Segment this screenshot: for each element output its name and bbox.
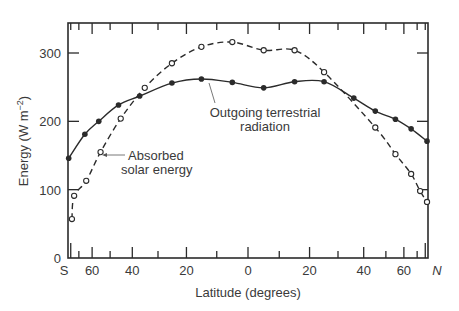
- annotation-arrow-outgoing: [209, 83, 215, 103]
- x-tick-label: S: [60, 263, 69, 278]
- data-point-filled: [321, 79, 327, 85]
- data-point-open: [98, 149, 103, 154]
- data-point-open: [169, 61, 174, 66]
- data-point-filled: [351, 95, 357, 101]
- axis-ticks: [68, 23, 428, 258]
- x-tick-labels: S6040200204060N: [60, 263, 443, 278]
- data-point-open: [373, 125, 378, 130]
- energy-balance-chart: 0100200300 S6040200204060N Latitude (deg…: [0, 0, 459, 311]
- y-tick-label: 100: [39, 183, 61, 198]
- data-point-filled: [116, 102, 122, 108]
- annotation-absorbed-line2: solar energy: [121, 162, 193, 177]
- annotation-absorbed: Absorbed solar energy: [102, 148, 193, 177]
- y-tick-labels: 0100200300: [39, 46, 61, 266]
- data-point-filled: [393, 116, 399, 122]
- data-point-open: [409, 171, 414, 176]
- y-axis-title: Energy (W m−2): [15, 96, 31, 186]
- data-point-filled: [424, 138, 430, 144]
- data-point-filled: [261, 85, 267, 91]
- x-tick-label: 60: [85, 263, 99, 278]
- data-point-filled: [96, 119, 102, 125]
- data-point-filled: [230, 80, 236, 86]
- annotation-outgoing-line1: Outgoing terrestrial: [210, 105, 321, 120]
- data-point-filled: [66, 155, 72, 161]
- data-point-open: [118, 116, 123, 121]
- x-tick-label: 40: [356, 263, 370, 278]
- data-point-open: [418, 188, 423, 193]
- x-tick-label: 40: [125, 263, 139, 278]
- annotation-outgoing: Outgoing terrestrial radiation: [209, 83, 320, 134]
- y-tick-label: 200: [39, 114, 61, 129]
- data-point-filled: [199, 76, 205, 82]
- data-point-filled: [169, 80, 175, 86]
- data-point-filled: [292, 79, 298, 85]
- data-point-open: [84, 178, 89, 183]
- data-point-filled: [82, 132, 88, 138]
- data-point-open: [424, 199, 429, 204]
- data-point-open: [199, 44, 204, 49]
- data-point-open: [69, 216, 74, 221]
- data-point-filled: [372, 108, 378, 114]
- annotation-absorbed-line1: Absorbed: [128, 148, 184, 163]
- data-point-open: [321, 70, 326, 75]
- x-tick-label: N: [432, 263, 442, 278]
- data-point-filled: [408, 126, 414, 132]
- data-point-open: [72, 193, 77, 198]
- data-point-open: [142, 85, 147, 90]
- x-axis-title: Latitude (degrees): [195, 285, 301, 300]
- plot-frame: [68, 23, 428, 258]
- x-tick-label: 20: [302, 263, 316, 278]
- data-point-open: [393, 152, 398, 157]
- y-tick-label: 300: [39, 46, 61, 61]
- x-tick-label: 20: [179, 263, 193, 278]
- x-tick-label: 0: [244, 263, 251, 278]
- data-point-open: [230, 39, 235, 44]
- data-point-open: [292, 48, 297, 53]
- x-tick-label: 60: [397, 263, 411, 278]
- annotation-outgoing-line2: radiation: [240, 119, 290, 134]
- data-point-open: [261, 48, 266, 53]
